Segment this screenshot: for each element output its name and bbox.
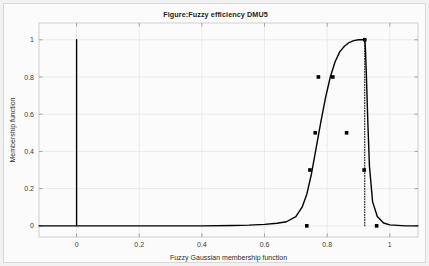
x-tick-label: 1 (388, 241, 392, 248)
data-point-marker (345, 131, 349, 135)
data-point-marker (375, 224, 379, 228)
y-tick-label: 0 (30, 222, 34, 229)
data-point-marker (308, 168, 312, 172)
data-point-marker (313, 131, 317, 135)
y-tick-label: 0.4 (24, 148, 34, 155)
series-line (39, 40, 418, 226)
data-point-marker (363, 38, 367, 42)
data-points (305, 38, 378, 228)
chart-plot-area: 00.20.40.60.8100.20.40.60.81 Fuzzy Gauss… (4, 4, 427, 264)
figure-panel: Figure:Fuzzy efficiency DMU5 00.20.40.60… (3, 3, 426, 263)
plot-frame (39, 23, 418, 237)
y-tick-label: 0.2 (24, 185, 34, 192)
x-tick-label: 0 (75, 241, 79, 248)
x-tick-label: 0.4 (197, 241, 207, 248)
x-tick-label: 0.6 (260, 241, 270, 248)
x-tick-label: 0.2 (134, 241, 144, 248)
y-tick-label: 0.8 (24, 74, 34, 81)
x-axis-label: Fuzzy Gaussian membership function (170, 254, 287, 262)
x-tick-label: 0.8 (322, 241, 332, 248)
y-tick-label: 1 (30, 36, 34, 43)
data-point-marker (362, 168, 366, 172)
data-point-marker (331, 75, 335, 79)
data-point-marker (317, 75, 321, 79)
y-axis-label: Membership function (9, 97, 17, 162)
axis-ticks: 00.20.40.60.8100.20.40.60.81 (24, 23, 418, 248)
figure-container: Figure:Fuzzy efficiency DMU5 00.20.40.60… (0, 0, 429, 266)
data-series (39, 40, 418, 226)
data-point-marker (305, 224, 309, 228)
grid-lines (39, 23, 418, 237)
y-tick-label: 0.6 (24, 111, 34, 118)
